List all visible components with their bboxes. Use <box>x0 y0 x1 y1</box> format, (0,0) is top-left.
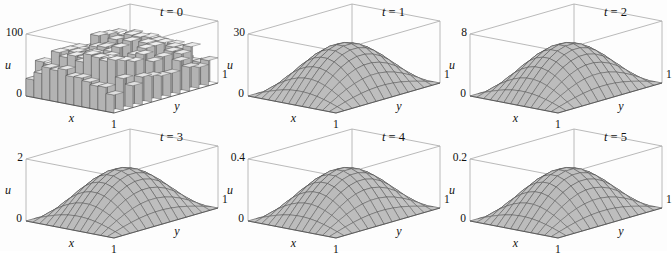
z-axis-name-label: u <box>449 59 455 71</box>
z-max-tick-label: 0.4 <box>231 152 245 164</box>
surface-mesh <box>248 167 440 238</box>
surface-mesh <box>470 167 662 238</box>
x-axis-name-label: x <box>69 237 74 249</box>
surface-mesh <box>26 167 218 238</box>
y-axis-name-label: y <box>396 100 401 112</box>
time-label-t4: t = 4 <box>382 131 405 144</box>
surface-canvas-t2 <box>444 0 666 125</box>
surface-mesh <box>470 42 662 113</box>
z-axis-name-label: u <box>5 59 11 71</box>
surface-panel-t0: 1000uxy11t = 0 <box>0 0 222 125</box>
x-max-tick-label: 1 <box>555 244 561 256</box>
surface-panel-t2: 80uxy11t = 2 <box>444 0 666 125</box>
z-min-tick-label: 0 <box>460 88 466 100</box>
z-axis-name-label: u <box>5 184 11 196</box>
z-min-tick-label: 0 <box>460 213 466 225</box>
surface-canvas-t5 <box>444 125 666 250</box>
z-min-tick-label: 0 <box>16 213 22 225</box>
z-max-tick-label: 2 <box>17 152 23 164</box>
z-max-tick-label: 0.2 <box>453 152 467 164</box>
time-label-t5: t = 5 <box>604 131 627 144</box>
y-axis-name-label: y <box>618 225 623 237</box>
surface-panel-t5: 0.20uxy11t = 5 <box>444 125 666 250</box>
z-axis-name-label: u <box>449 184 455 196</box>
y-axis-name-label: y <box>174 225 179 237</box>
surface-panel-t1: 300uxy11t = 1 <box>222 0 444 125</box>
x-max-tick-label: 1 <box>333 244 339 256</box>
z-min-tick-label: 0 <box>16 88 22 100</box>
surface-mesh <box>26 29 218 113</box>
x-axis-name-label: x <box>513 237 518 249</box>
z-max-tick-label: 8 <box>461 27 467 39</box>
z-min-tick-label: 0 <box>238 213 244 225</box>
z-axis-name-label: u <box>227 59 233 71</box>
surface-panel-t4: 0.40uxy11t = 4 <box>222 125 444 250</box>
x-axis-name-label: x <box>69 112 74 124</box>
x-axis-name-label: x <box>291 112 296 124</box>
y-axis-name-label: y <box>618 100 623 112</box>
surface-panel-t3: 20uxy11t = 3 <box>0 125 222 250</box>
surface-canvas-t1 <box>222 0 444 125</box>
y-max-tick-label: 1 <box>666 194 672 206</box>
y-axis-name-label: y <box>396 225 401 237</box>
x-axis-name-label: x <box>291 237 296 249</box>
z-axis-name-label: u <box>227 184 233 196</box>
z-min-tick-label: 0 <box>238 88 244 100</box>
time-label-t0: t = 0 <box>160 6 183 19</box>
x-axis-name-label: x <box>513 112 518 124</box>
z-max-tick-label: 30 <box>234 27 246 39</box>
time-label-t1: t = 1 <box>382 6 405 19</box>
time-label-t2: t = 2 <box>604 6 627 19</box>
surface-canvas-t0 <box>0 0 222 125</box>
z-max-tick-label: 100 <box>6 27 23 39</box>
x-max-tick-label: 1 <box>111 244 117 256</box>
y-axis-name-label: y <box>174 100 179 112</box>
y-max-tick-label: 1 <box>666 69 672 81</box>
time-label-t3: t = 3 <box>160 131 183 144</box>
surface-mesh <box>248 42 440 113</box>
surface-canvas-t3 <box>0 125 222 250</box>
surface-canvas-t4 <box>222 125 444 250</box>
